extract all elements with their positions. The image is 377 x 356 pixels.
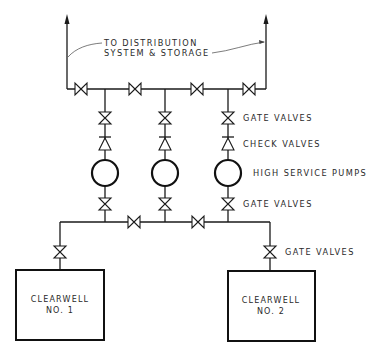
right-outlet-riser	[264, 14, 269, 89]
gate-valve-icon	[192, 216, 204, 228]
clearwell-1: CLEARWELL NO. 1	[16, 270, 104, 340]
label-check-valves: CHECK VALVES	[243, 139, 321, 149]
gate-valve-icon	[129, 83, 141, 95]
annotation-line-2: SYSTEM & STORAGE	[104, 48, 210, 58]
gate-valve-icon	[191, 83, 203, 95]
header-gate-valve-1	[75, 83, 87, 95]
header-gate-valve-4	[243, 83, 255, 95]
pump-icon	[92, 160, 118, 186]
pump-branch-1	[92, 89, 118, 222]
gate-valve-icon	[159, 112, 171, 124]
clearwell-2: CLEARWELL NO. 2	[228, 271, 315, 341]
annotation-line-1: TO DISTRIBUTION	[103, 38, 198, 48]
pump-branch-3	[215, 89, 241, 222]
label-clearwell-gate-valves: GATE VALVES	[285, 247, 355, 257]
leader-line-left	[68, 43, 102, 57]
clearwell-1-label-line-2: NO. 1	[46, 306, 74, 315]
suction-header	[60, 222, 270, 270]
pump-branch-2	[152, 89, 178, 222]
gate-valve-icon	[264, 246, 276, 258]
leader-arrow-icon	[259, 40, 265, 44]
gate-valve-icon	[243, 83, 255, 95]
gate-valve-icon	[128, 216, 140, 228]
header-gate-valve-2	[129, 83, 141, 95]
clearwell-2-label-line-1: CLEARWELL	[242, 296, 300, 305]
pump-icon	[215, 160, 241, 186]
suction-gate-valve-1	[128, 216, 140, 228]
clearwell-1-gate-valve	[54, 246, 66, 258]
gate-valve-icon	[99, 198, 111, 210]
arrow-up-icon	[65, 14, 70, 24]
clearwell-2-gate-valve	[264, 246, 276, 258]
water-distribution-schematic: TO DISTRIBUTION SYSTEM & STORAGE	[0, 0, 377, 356]
pump-icon	[152, 160, 178, 186]
gate-valve-icon	[99, 112, 111, 124]
gate-valve-icon	[54, 246, 66, 258]
suction-gate-valve-2	[192, 216, 204, 228]
gate-valve-icon	[222, 112, 234, 124]
left-outlet-riser	[65, 14, 70, 89]
label-high-service-pumps: HIGH SERVICE PUMPS	[253, 168, 367, 178]
distribution-annotation: TO DISTRIBUTION SYSTEM & STORAGE	[68, 38, 265, 58]
clearwell-1-label-line-1: CLEARWELL	[31, 295, 89, 304]
arrow-up-icon	[264, 14, 269, 24]
gate-valve-icon	[159, 198, 171, 210]
label-upper-gate-valves: GATE VALVES	[243, 113, 313, 123]
leader-line-right	[212, 42, 264, 53]
check-valve-icon	[222, 138, 234, 150]
gate-valve-icon	[75, 83, 87, 95]
label-lower-gate-valves: GATE VALVES	[243, 199, 313, 209]
header-gate-valve-3	[191, 83, 203, 95]
clearwell-2-label-line-2: NO. 2	[257, 307, 285, 316]
check-valve-icon	[99, 138, 111, 150]
check-valve-icon	[159, 138, 171, 150]
gate-valve-icon	[222, 198, 234, 210]
